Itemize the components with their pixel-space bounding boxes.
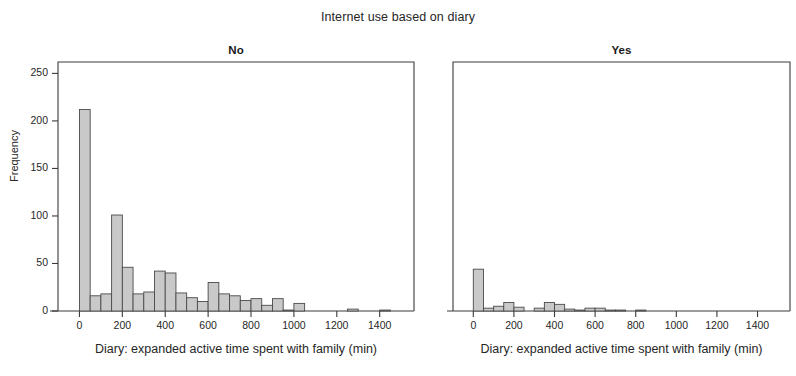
histogram-bar bbox=[575, 310, 585, 311]
histogram-bar bbox=[90, 296, 101, 311]
histogram-bar bbox=[473, 269, 483, 311]
histogram-bar bbox=[165, 273, 176, 311]
histogram-bar bbox=[348, 309, 359, 311]
histogram-bar bbox=[534, 308, 544, 311]
histogram-bar bbox=[615, 310, 625, 311]
histogram-bar bbox=[101, 294, 112, 311]
histogram-bar bbox=[262, 305, 273, 311]
histogram-bar bbox=[483, 308, 493, 311]
histogram-bar bbox=[565, 309, 575, 311]
histogram-bar bbox=[197, 301, 208, 311]
histogram-bar bbox=[240, 301, 251, 311]
histogram-bar bbox=[494, 306, 504, 311]
chart-root: Internet use based on diary Frequency No… bbox=[0, 0, 796, 376]
histogram-bar bbox=[187, 298, 198, 311]
histogram-bar bbox=[514, 307, 524, 311]
histogram-bar bbox=[251, 299, 262, 311]
histogram-bar bbox=[605, 310, 615, 311]
histogram-bar bbox=[636, 310, 646, 311]
panel-no bbox=[50, 62, 414, 317]
histogram-bar bbox=[504, 302, 514, 311]
histogram-bar bbox=[155, 271, 166, 311]
histogram-bar bbox=[79, 110, 90, 311]
histogram-bar bbox=[208, 282, 219, 311]
histogram-bar bbox=[133, 294, 144, 311]
plot-area bbox=[0, 0, 796, 376]
histogram-bar bbox=[294, 303, 305, 311]
histogram-bar bbox=[272, 299, 283, 311]
histogram-bar bbox=[219, 294, 230, 311]
panel-yes bbox=[447, 62, 790, 317]
histogram-bar bbox=[585, 308, 595, 311]
histogram-bar bbox=[380, 310, 391, 311]
histogram-bar bbox=[595, 308, 605, 311]
histogram-bar bbox=[112, 215, 123, 311]
histogram-bar bbox=[144, 292, 155, 311]
histogram-bar bbox=[176, 293, 187, 311]
histogram-bar bbox=[544, 302, 554, 311]
histogram-bar bbox=[122, 267, 133, 311]
panel-frame bbox=[453, 62, 790, 311]
histogram-bar bbox=[283, 310, 294, 311]
histogram-bar bbox=[555, 304, 565, 311]
histogram-bar bbox=[230, 296, 241, 311]
